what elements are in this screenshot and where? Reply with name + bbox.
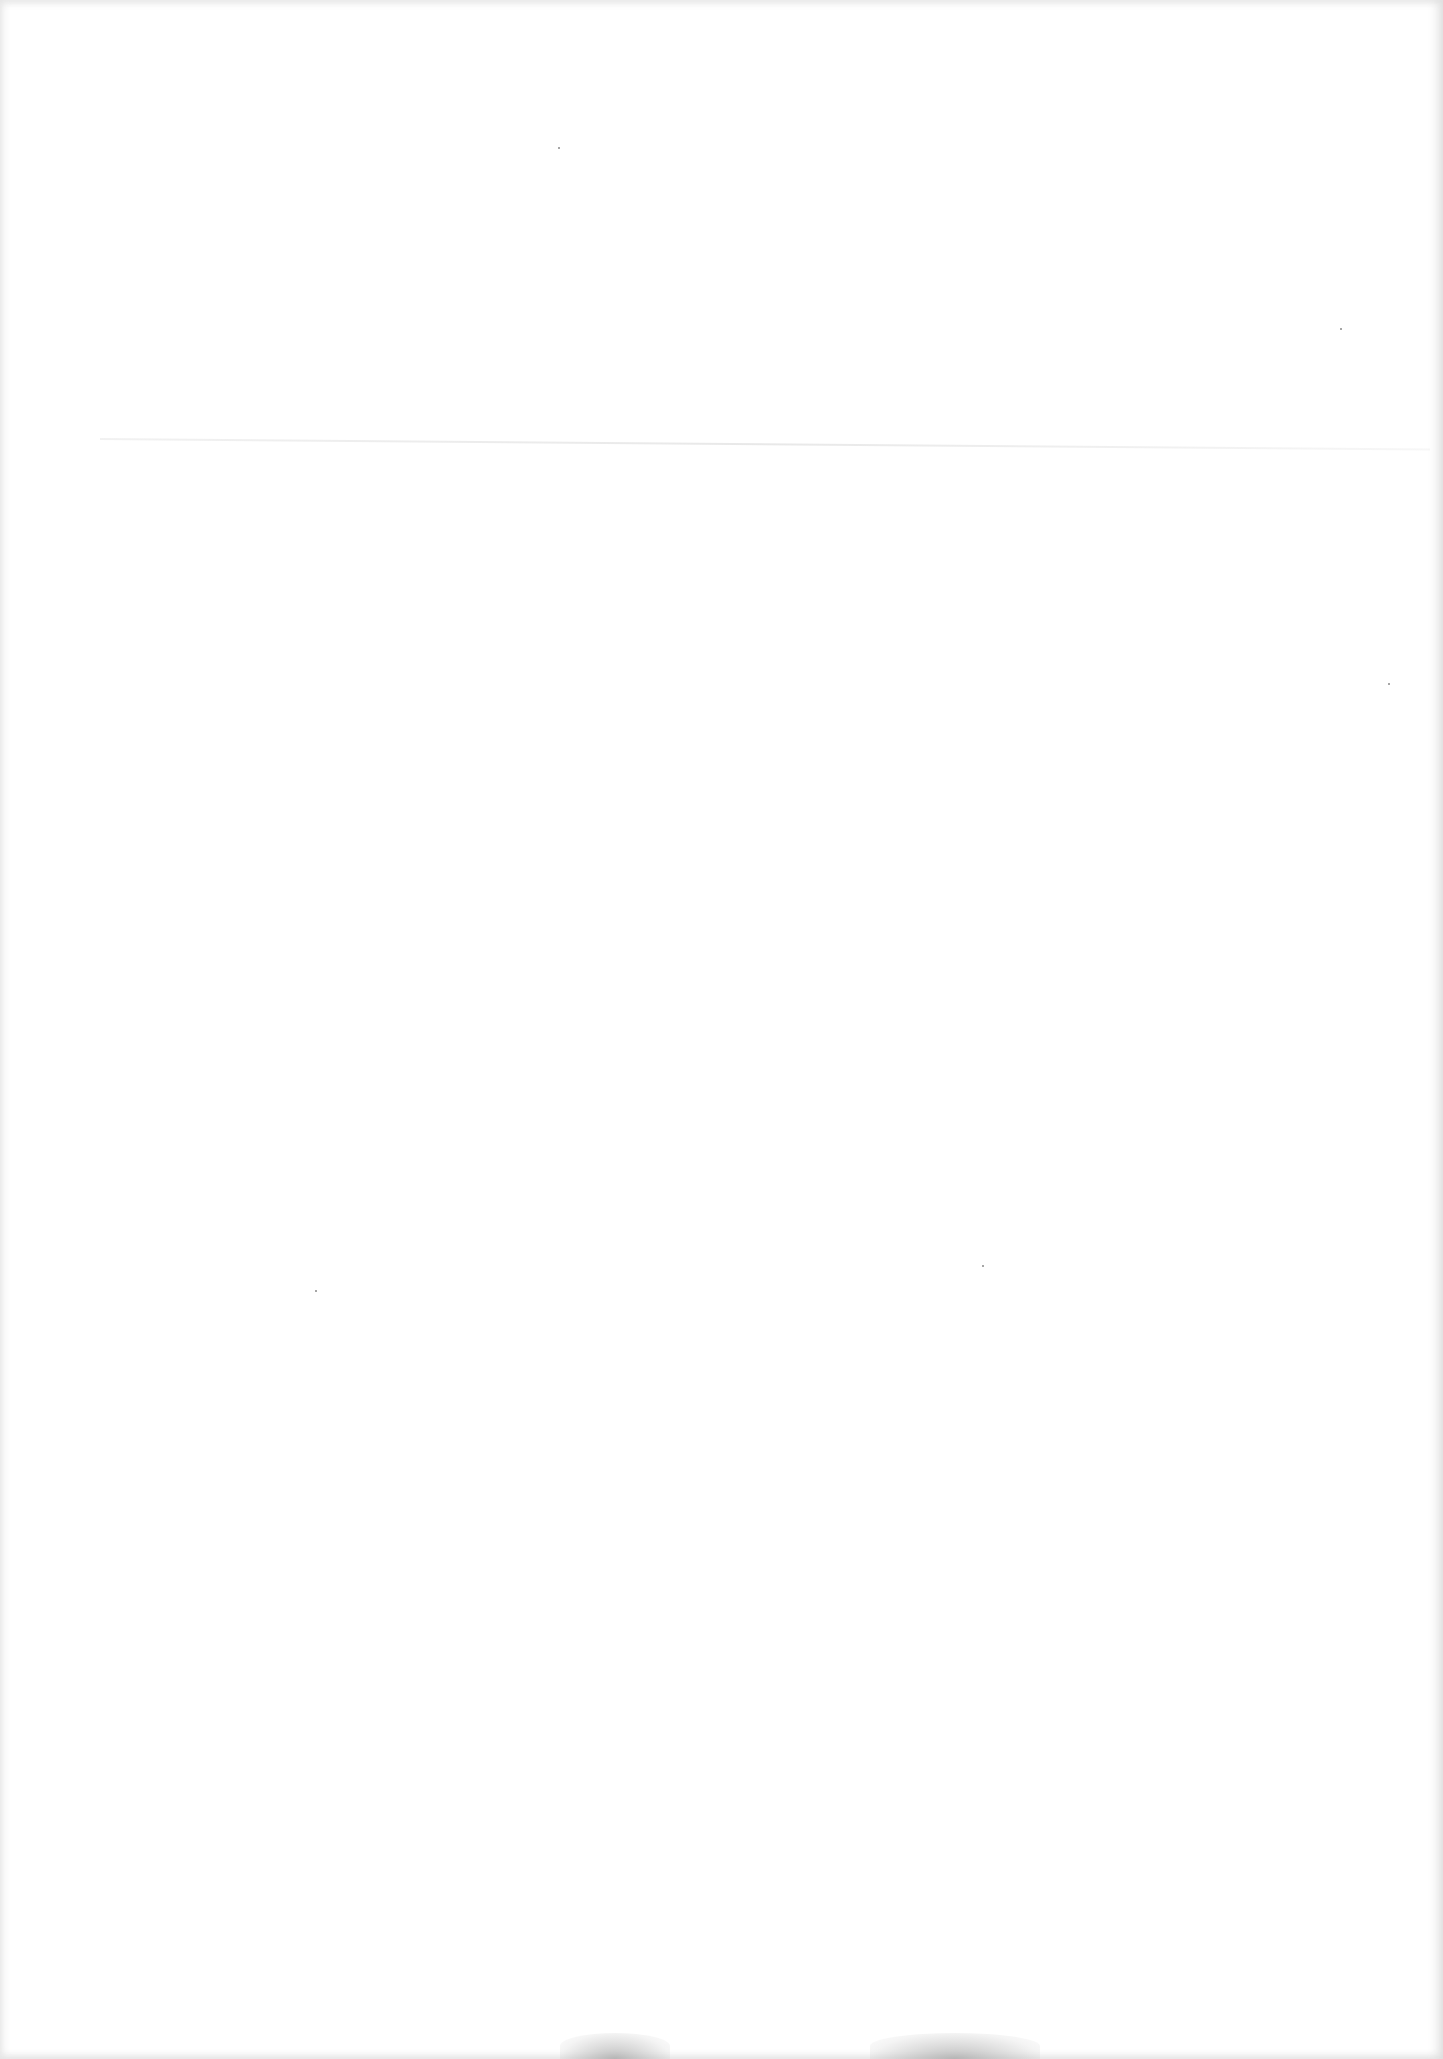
speck	[982, 1265, 984, 1267]
blank-scanned-page	[0, 0, 1443, 2059]
speck	[1388, 683, 1390, 685]
show-through-text-line	[100, 438, 1430, 450]
smudge	[560, 2033, 670, 2059]
speck	[558, 147, 560, 149]
speck	[315, 1290, 317, 1292]
smudge	[870, 2033, 1040, 2059]
speck	[1340, 328, 1342, 330]
